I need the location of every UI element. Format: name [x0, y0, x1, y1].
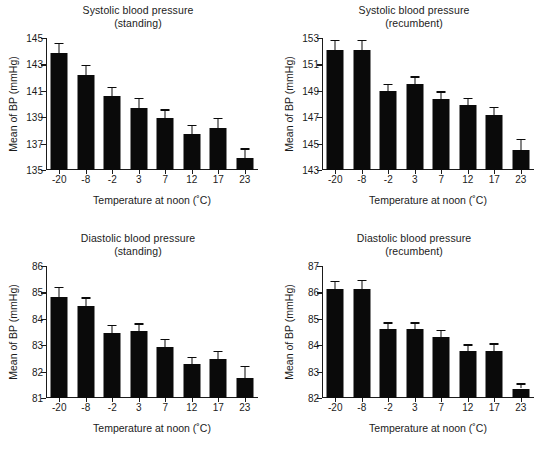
- x-axis-tick-label: -2: [384, 402, 393, 413]
- y-axis-tick-label: 85: [32, 287, 43, 298]
- x-axis-tick-label: 23: [515, 174, 526, 185]
- y-axis-label: Mean of BP (mmHg): [282, 38, 296, 170]
- error-bar: [81, 297, 90, 306]
- error-bar-stem: [59, 43, 60, 53]
- bar: [104, 96, 121, 170]
- bar: [51, 297, 68, 398]
- y-axis-tick-label: 87: [308, 261, 319, 272]
- y-axis-tick-label: 86: [308, 287, 319, 298]
- x-axis-tick-label: 17: [213, 402, 224, 413]
- error-bar-stem: [138, 98, 139, 108]
- error-bar-stem: [218, 118, 219, 128]
- y-axis-label: Mean of BP (mmHg): [282, 266, 296, 398]
- bar: [327, 289, 344, 398]
- error-bar-cap: [410, 322, 419, 323]
- bar: [380, 329, 397, 398]
- x-axis-tick-label: 23: [515, 402, 526, 413]
- error-bar: [55, 287, 64, 297]
- bar: [183, 364, 200, 398]
- bar: [512, 389, 529, 399]
- error-bar: [384, 84, 393, 92]
- error-bar-cap: [214, 118, 223, 119]
- x-axis-tick-label: 17: [213, 174, 224, 185]
- error-bar: [240, 148, 249, 158]
- error-bar-cap: [108, 87, 117, 88]
- error-bar: [463, 344, 472, 350]
- error-bar-cap: [331, 281, 340, 282]
- x-axis-tick-label: 3: [136, 174, 142, 185]
- error-bar-stem: [112, 87, 113, 96]
- bar: [406, 329, 423, 398]
- error-bar-cap: [516, 383, 525, 384]
- error-bar-cap: [331, 40, 340, 41]
- error-bar: [81, 65, 90, 75]
- error-bar: [187, 125, 196, 134]
- error-bar-cap: [81, 65, 90, 66]
- bar: [157, 347, 174, 398]
- plot-area: 143145147149151153-20-8-237121723: [322, 38, 534, 170]
- error-bar-cap: [516, 139, 525, 140]
- bar: [236, 158, 253, 170]
- bar: [130, 331, 147, 398]
- error-bar: [134, 323, 143, 330]
- x-axis-tick-label: 3: [412, 402, 418, 413]
- error-bar: [161, 109, 170, 118]
- x-axis-tick-label: -20: [328, 402, 342, 413]
- x-axis-tick-label: -2: [384, 174, 393, 185]
- bar: [51, 53, 68, 170]
- error-bar: [357, 280, 366, 290]
- y-axis-tick-label: 153: [302, 33, 319, 44]
- error-bar-cap: [437, 91, 446, 92]
- bar: [104, 333, 121, 398]
- figure-blood-pressure-vs-temperature: Systolic blood pressure(standing)Mean of…: [0, 0, 552, 456]
- x-axis-tick-label: 17: [489, 402, 500, 413]
- bar: [433, 99, 450, 170]
- error-bar: [240, 366, 249, 379]
- x-axis-tick-label: 12: [462, 174, 473, 185]
- x-axis-tick-label: 23: [239, 174, 250, 185]
- error-bar-cap: [134, 98, 143, 99]
- error-bar: [331, 40, 340, 50]
- x-axis-tick-label: -2: [108, 402, 117, 413]
- error-bar: [516, 383, 525, 388]
- error-bar-cap: [240, 366, 249, 367]
- bar: [236, 378, 253, 398]
- y-axis-label-text: Mean of BP (mmHg): [7, 56, 19, 152]
- bar: [459, 351, 476, 398]
- bar: [183, 134, 200, 170]
- bar: [486, 351, 503, 398]
- y-axis-tick-label: 83: [308, 366, 319, 377]
- y-axis-tick-label: 145: [26, 33, 43, 44]
- x-axis-tick-label: 7: [162, 402, 168, 413]
- x-axis-label: Temperature at noon (˚C): [46, 194, 258, 206]
- y-axis-tick-label: 135: [26, 165, 43, 176]
- x-axis-tick-label: -8: [357, 402, 366, 413]
- y-axis-line: [322, 266, 323, 398]
- y-axis-tick-label: 83: [32, 340, 43, 351]
- error-bar: [463, 98, 472, 105]
- y-axis-tick-label: 84: [32, 313, 43, 324]
- bar: [459, 105, 476, 170]
- y-axis-label-text: Mean of BP (mmHg): [283, 284, 295, 380]
- error-bar-cap: [490, 343, 499, 344]
- bar: [380, 91, 397, 170]
- error-bar: [331, 281, 340, 290]
- bar: [77, 75, 94, 170]
- error-bar-stem: [244, 366, 245, 379]
- error-bar: [384, 322, 393, 328]
- plot-area: 818283848586-20-8-237121723: [46, 266, 258, 398]
- error-bar-stem: [85, 65, 86, 75]
- chart-panel-3: Diastolic blood pressure(recumbent)Mean …: [276, 228, 552, 456]
- error-bar-stem: [520, 139, 521, 150]
- x-axis-label: Temperature at noon (˚C): [46, 422, 258, 434]
- error-bar-cap: [384, 322, 393, 323]
- error-bar: [357, 40, 366, 50]
- x-axis-tick-label: 7: [438, 402, 444, 413]
- error-bar-cap: [161, 109, 170, 110]
- bar: [77, 306, 94, 398]
- error-bar-stem: [361, 40, 362, 50]
- y-axis-label: Mean of BP (mmHg): [6, 38, 20, 170]
- error-bar: [490, 107, 499, 115]
- chart-title-subtitle: (recumbent): [276, 17, 552, 30]
- bar: [130, 108, 147, 170]
